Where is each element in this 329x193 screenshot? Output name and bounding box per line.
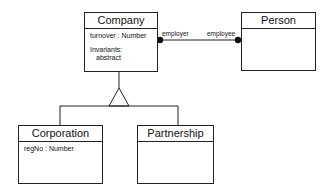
class-body [242, 29, 315, 35]
class-partnership[interactable]: Partnership [137, 125, 214, 184]
attribute: turnover : Number [90, 32, 152, 40]
attribute: regNo : Number [24, 145, 97, 153]
class-person[interactable]: Person [241, 12, 316, 71]
class-name: Partnership [138, 126, 213, 142]
class-company[interactable]: Company turnover : Number Invariants: ab… [84, 12, 158, 72]
role-employer: employer [162, 30, 189, 37]
generalization-triangle-icon [109, 88, 129, 106]
class-body: turnover : Number Invariants: abstract [85, 29, 157, 65]
class-corporation[interactable]: Corporation regNo : Number [18, 125, 103, 184]
class-name: Company [85, 13, 157, 29]
invariants-label: Invariants: [90, 46, 152, 54]
class-name: Person [242, 13, 315, 29]
class-body: regNo : Number [19, 142, 102, 156]
class-body [138, 142, 213, 148]
class-name: Corporation [19, 126, 102, 142]
role-employee: employee [207, 30, 235, 37]
invariant: abstract [90, 54, 152, 62]
